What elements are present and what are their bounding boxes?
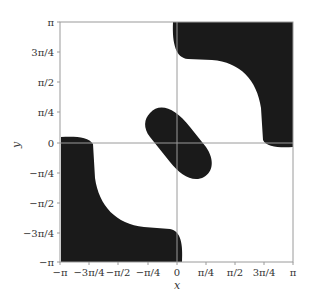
x-tick-label: 0 — [174, 267, 180, 278]
chart: π 3π/4 π/2 π/4 0 −π/4 −π/2 −3π/4 −π −π −… — [0, 0, 311, 307]
x-tick-label: −3π/4 — [73, 267, 104, 278]
bottom-left-region — [61, 137, 182, 262]
x-tick-label: π/2 — [227, 267, 243, 278]
y-tick-label: −π/4 — [29, 168, 54, 179]
y-axis-title: y — [10, 141, 23, 149]
x-tick-labels: −π −3π/4 −π/2 −π/4 0 π/4 π/2 3π/4 π — [53, 267, 297, 278]
x-axis-title: x — [174, 279, 181, 292]
y-tick-labels: π 3π/4 π/2 π/4 0 −π/4 −π/2 −3π/4 −π — [23, 17, 54, 268]
y-tick-label: 0 — [48, 138, 54, 149]
x-tick-label: −π/4 — [136, 267, 161, 278]
y-tick-label: π/4 — [38, 107, 54, 118]
x-tick-label: 3π/4 — [253, 267, 276, 278]
y-tick-label: π/2 — [38, 77, 54, 88]
y-tick-label: π — [47, 17, 54, 28]
x-tick-label: π/4 — [198, 267, 214, 278]
y-tick-label: −π/2 — [29, 198, 54, 209]
y-tick-label: −3π/4 — [23, 228, 54, 239]
y-tick-label: 3π/4 — [31, 47, 54, 58]
x-tick-label: −π/2 — [106, 267, 131, 278]
x-tick-label: π — [290, 267, 297, 278]
x-tick-label: −π — [53, 267, 68, 278]
